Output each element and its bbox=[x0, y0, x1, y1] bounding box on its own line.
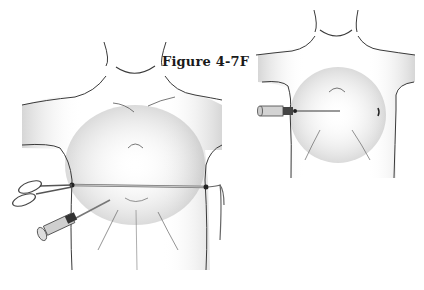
figure-label: Figure 4-7F bbox=[162, 54, 249, 69]
scissors-icon bbox=[11, 178, 72, 209]
left-torso-illustration bbox=[22, 42, 222, 270]
illustration-svg bbox=[0, 0, 424, 290]
figure-canvas: Figure 4-7F bbox=[0, 0, 424, 290]
right-torso-illustration bbox=[256, 10, 415, 178]
tie-icon bbox=[208, 185, 224, 240]
